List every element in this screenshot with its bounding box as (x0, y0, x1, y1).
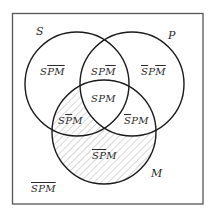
region-text: M (72, 115, 83, 126)
region-text: PM (131, 115, 149, 126)
region-text: SPM (91, 93, 116, 104)
shaded-region-m-not-p (40, 70, 170, 200)
set-label-p: P (168, 30, 176, 42)
region-text-negated: SP (92, 150, 106, 161)
region-label-p-only: SPM (141, 66, 166, 78)
region-text-negated: M (155, 66, 166, 77)
set-label-s: S (36, 26, 44, 38)
region-label-s-only: SPM (40, 66, 65, 78)
region-label-s-and-m: SPM (58, 115, 83, 127)
region-text-negated: PM (47, 66, 65, 77)
region-label-m-only: SPM (92, 150, 117, 162)
region-label-p-and-m: SPM (124, 115, 149, 127)
region-text: M (106, 150, 117, 161)
region-label-all-three: SPM (91, 93, 116, 105)
region-text-negated: SPM (31, 183, 56, 194)
region-text-negated: M (105, 66, 116, 77)
set-label-m: M (151, 168, 163, 180)
region-text: SP (91, 66, 105, 77)
venn-canvas (0, 0, 219, 213)
region-label-s-and-p: SPM (91, 66, 116, 78)
venn-diagram: S P M SPM SPM SPM SPM SPM SPM SPM SPM (0, 0, 219, 213)
region-label-none: SPM (31, 183, 56, 195)
